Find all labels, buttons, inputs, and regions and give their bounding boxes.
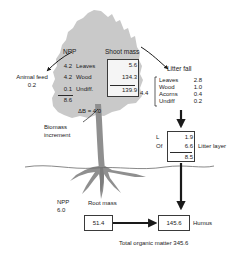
root-npp-label: NPP — [57, 199, 69, 205]
litter-fall-value-leaves: 2.8 — [186, 77, 202, 83]
humus-value: 145.6 — [158, 220, 190, 226]
shoot-mass-value-1: 5.6 — [108, 62, 137, 68]
animal-feed-value: 0.2 — [4, 82, 60, 88]
biomass-increment-equation: ΔB = 4.0 — [78, 108, 101, 114]
npp-value-wood: 4.2 — [58, 74, 72, 80]
shoot-mass-header: Shoot mass — [105, 49, 139, 56]
litter-fall-label-leaves: Leaves — [159, 77, 178, 83]
ecosystem-flow-diagram — [0, 0, 228, 255]
tree-roots — [70, 166, 146, 199]
npp-total: 8.6 — [58, 97, 72, 103]
npp-total-rule — [58, 95, 73, 96]
animal-feed-label: Animal feed — [4, 74, 60, 80]
litter-fall-bracket — [155, 77, 157, 106]
litter-fall-value-wood: 1.0 — [186, 84, 202, 90]
litter-layer-value-of: 6.6 — [168, 143, 193, 149]
root-mass-label: Root mass — [88, 200, 117, 206]
litter-fall-label-acorns: Acorns — [159, 91, 178, 97]
litter-fall-value-undiff: 0.2 — [186, 98, 202, 104]
npp-label-leaves: Leaves — [76, 63, 95, 69]
total-organic-matter-caption: Total organic matter 345.6 — [119, 240, 188, 246]
litter-layer-header: Litter layer — [198, 143, 226, 149]
shoot-mass-value-2: 134.3 — [108, 74, 137, 80]
npp-label-wood: Wood — [76, 74, 92, 80]
root-npp-value: 6.0 — [57, 207, 65, 213]
litter-fall-label-undiff: Undiff — [159, 98, 175, 104]
arrow-to-litter-fall — [141, 47, 168, 69]
root-mass-value: 51.4 — [84, 220, 113, 226]
biomass-increment-label-line2: increment — [44, 132, 70, 138]
npp-value-undiff: 0.1 — [58, 86, 72, 92]
npp-value-leaves: 4.2 — [58, 63, 72, 69]
litter-layer-label-l: L — [156, 134, 159, 140]
npp-label-undiff: Undiff. — [76, 86, 93, 92]
ground-line — [25, 166, 214, 169]
npp-header: NPP — [63, 49, 76, 56]
litter-layer-total: 8.5 — [168, 154, 193, 160]
shoot-mass-total-rule — [110, 85, 135, 86]
litter-fall-label-wood: Wood — [159, 84, 175, 90]
humus-label: Humus — [193, 220, 212, 226]
litter-fall-flux: 4.4 — [140, 90, 148, 96]
litter-layer-value-l: 1.9 — [168, 134, 193, 140]
litter-layer-total-rule — [170, 152, 192, 153]
biomass-increment-label-line1: Biomass — [44, 124, 67, 130]
shoot-mass-total: 139.9 — [108, 87, 137, 93]
litter-layer-label-of: Of — [156, 143, 162, 149]
litter-fall-value-acorns: 0.4 — [186, 91, 202, 97]
litter-fall-header: Litter fall — [167, 66, 192, 73]
